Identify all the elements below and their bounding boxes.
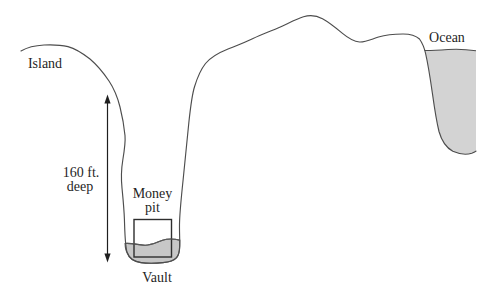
money-pit-diagram: Island Ocean 160 ft. deep Money pit Vaul…: [0, 0, 494, 297]
depth-arrow-head-top-icon: [104, 95, 110, 104]
money-pit-label-line1: Money: [133, 186, 173, 201]
island-label: Island: [28, 56, 62, 71]
depth-label-line2: deep: [67, 179, 93, 194]
depth-arrow: [104, 95, 110, 263]
money-pit-label-line2: pit: [145, 200, 160, 215]
diagram-canvas: Island Ocean 160 ft. deep Money pit Vaul…: [0, 0, 494, 297]
terrain-outline: [21, 16, 476, 264]
ocean-label: Ocean: [429, 30, 465, 45]
depth-label-line1: 160 ft.: [63, 165, 100, 180]
depth-arrow-head-bottom-icon: [104, 254, 110, 263]
ocean-water-fill: [425, 49, 477, 154]
vault-label: Vault: [142, 270, 172, 285]
